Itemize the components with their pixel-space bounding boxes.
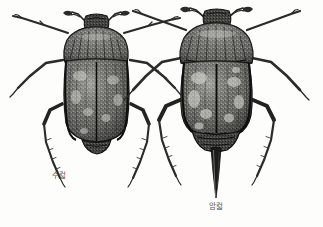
- female-elytra: [181, 61, 252, 136]
- male-caption-label: 수컯: [0, 169, 118, 180]
- beetle-illustration-canvas: [0, 0, 323, 227]
- beetle-illustration-figure: 수컯 암컯: [0, 0, 323, 227]
- male-elytra: [64, 59, 129, 142]
- female-caption-label: 암컯: [173, 200, 259, 211]
